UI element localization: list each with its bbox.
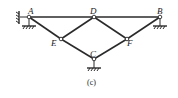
truss-diagram: A D B E F C (c) — [0, 0, 178, 98]
label-d: D — [89, 6, 97, 16]
caption: (c) — [87, 78, 96, 87]
label-f: F — [126, 38, 133, 48]
member-c-f — [94, 39, 127, 59]
member-a-e — [29, 17, 61, 39]
label-c: C — [90, 49, 97, 59]
member-d-f — [94, 17, 127, 39]
label-e: E — [50, 38, 57, 48]
member-e-d — [61, 17, 94, 39]
joint-e — [59, 37, 63, 41]
label-b: B — [157, 6, 163, 16]
label-a: A — [27, 6, 34, 16]
